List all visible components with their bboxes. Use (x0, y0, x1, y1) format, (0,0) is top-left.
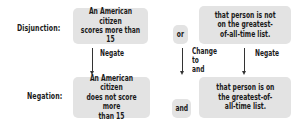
negation-label: Negation: (27, 91, 62, 101)
negate-right-arrow-line (244, 48, 245, 72)
negate-left-arrow-label: Negate (100, 49, 124, 58)
disjunction-left-box: An American citizen scores more than 15 (73, 8, 148, 44)
negation-right-box: that person is on the greatest-of- all-t… (199, 77, 291, 118)
negate-right-arrowhead-icon (242, 71, 246, 75)
negation-connective-text: and (175, 104, 188, 113)
negation-right-text: that person is on the greatest-of- all-t… (216, 83, 274, 111)
disjunction-right-text: that person is not on the greatest- of-a… (215, 11, 276, 39)
disjunction-connective-text: or (177, 30, 184, 39)
change-middle-arrow-label: Change to and (192, 47, 217, 75)
disjunction-right-box: that person is not on the greatest- of-a… (199, 6, 291, 44)
disjunction-connective-box: or (173, 25, 188, 44)
change-middle-arrowhead-icon (180, 71, 184, 75)
negation-left-box: An American citizen does not score more … (73, 77, 150, 118)
negate-left-arrow-line (92, 48, 93, 72)
disjunction-label: Disjunction: (17, 23, 60, 33)
negation-connective-box: and (172, 99, 191, 118)
change-middle-arrow-line (182, 48, 183, 72)
negation-left-text: An American citizen does not score more … (80, 74, 143, 121)
negate-right-arrow-label: Negate (255, 49, 279, 58)
disjunction-left-text: An American citizen scores more than 15 (80, 7, 142, 45)
